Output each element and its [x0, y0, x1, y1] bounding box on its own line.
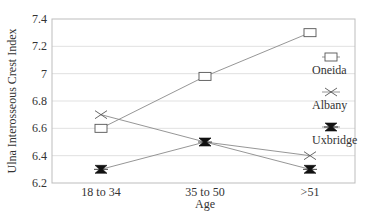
- x-axis-title: Age: [195, 197, 215, 211]
- legend-label: Uxbridge: [312, 133, 357, 147]
- y-tick-label: 6.6: [32, 121, 47, 135]
- data-point: [199, 72, 211, 80]
- data-point: [198, 138, 212, 146]
- x-tick-label: >51: [301, 185, 320, 199]
- series-albany: [95, 111, 316, 160]
- line-chart: 6.26.46.66.877.27.4 18 to 3435 to 50>51 …: [0, 0, 372, 223]
- data-point: [94, 165, 108, 173]
- series-line: [101, 115, 310, 156]
- legend-item-albany: Albany: [312, 88, 347, 112]
- legend-marker-icon: [325, 53, 337, 61]
- y-tick-label: 6.8: [32, 94, 47, 108]
- legend-item-uxbridge: Uxbridge: [312, 123, 357, 147]
- y-tick-label: 7.4: [32, 12, 47, 26]
- legend: OneidaAlbanyUxbridge: [312, 53, 357, 147]
- data-point: [95, 124, 107, 132]
- legend-label: Albany: [312, 98, 347, 112]
- y-tick-label: 6.2: [32, 176, 47, 190]
- legend-item-oneida: Oneida: [312, 53, 347, 77]
- data-point: [304, 29, 316, 37]
- y-axis-ticks: 6.26.46.66.877.27.4: [32, 12, 47, 190]
- data-point: [95, 111, 107, 119]
- y-tick-label: 7: [41, 67, 47, 81]
- y-tick-label: 6.4: [32, 149, 47, 163]
- data-point: [303, 165, 317, 173]
- y-tick-label: 7.2: [32, 39, 47, 53]
- legend-marker-icon: [324, 123, 338, 131]
- legend-label: Oneida: [312, 63, 347, 77]
- series-oneida: [95, 29, 316, 133]
- y-axis-title: Ulna Interosseous Crest Index: [5, 29, 19, 174]
- x-tick-label: 18 to 34: [81, 185, 120, 199]
